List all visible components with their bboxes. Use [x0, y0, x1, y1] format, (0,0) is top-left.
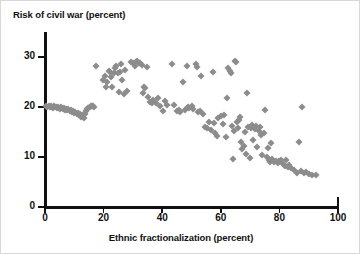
data-point: [183, 62, 190, 69]
data-point: [180, 78, 187, 85]
data-point: [244, 89, 251, 96]
data-point: [91, 103, 98, 110]
data-point: [249, 136, 256, 143]
data-point: [268, 139, 275, 146]
y-tick-label-30: 30: [5, 50, 35, 61]
data-point: [232, 58, 239, 65]
data-point: [312, 171, 319, 178]
data-point: [213, 132, 220, 139]
y-tick-label-0: 0: [5, 200, 35, 211]
data-point: [109, 83, 116, 90]
data-point: [159, 107, 166, 114]
data-point: [299, 103, 306, 110]
data-point: [119, 76, 126, 83]
x-axis-end-cap: [337, 197, 339, 207]
data-point: [295, 138, 302, 145]
data-point: [223, 94, 230, 101]
data-point: [200, 110, 207, 117]
x-tick-label-0: 0: [25, 212, 65, 223]
data-point: [254, 143, 261, 150]
data-point: [209, 68, 216, 75]
x-tick-label-100: 100: [318, 212, 358, 223]
data-point: [246, 154, 253, 161]
data-point: [230, 155, 237, 162]
y-tick-0: [38, 206, 44, 208]
data-point: [142, 84, 149, 91]
data-point: [262, 106, 269, 113]
y-tick-10: [38, 156, 44, 158]
x-tick-label-60: 60: [201, 212, 241, 223]
x-tick-label-80: 80: [259, 212, 299, 223]
y-axis-line: [44, 32, 47, 209]
data-point: [193, 63, 200, 70]
data-point: [143, 63, 150, 70]
x-axis-line: [44, 206, 339, 209]
y-tick-30: [38, 56, 44, 58]
x-axis-label: Ethnic fractionalization (percent): [1, 232, 360, 243]
chart-figure: Risk of civil war (percent) 0102030 0204…: [0, 0, 360, 254]
plot-area: 0102030 020406080100: [1, 1, 360, 254]
x-tick-label-20: 20: [84, 212, 124, 223]
data-point: [223, 133, 230, 140]
y-tick-label-20: 20: [5, 100, 35, 111]
data-point: [169, 60, 176, 67]
x-tick-label-40: 40: [142, 212, 182, 223]
data-point: [219, 120, 226, 127]
data-point: [221, 111, 228, 118]
data-point: [198, 72, 205, 79]
data-point: [93, 62, 100, 69]
data-point: [163, 101, 170, 108]
y-tick-label-10: 10: [5, 150, 35, 161]
